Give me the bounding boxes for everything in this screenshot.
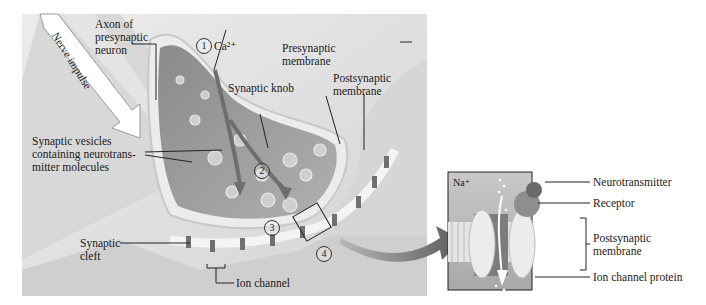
presynaptic-membrane-label: Presynaptic membrane [282,42,336,68]
synaptic-knob-label: Synaptic knob [228,82,294,95]
neurotransmitter-shape [526,182,542,198]
sodium-label: Na⁺ [453,176,470,189]
synaptic-vesicles-label: Synaptic vesicles containing neurotrans-… [32,135,136,174]
calcium-label: Ca²⁺ [214,40,236,53]
step-2-marker: 2 [254,163,270,179]
postsynaptic-membrane-label: Postsynaptic membrane [333,72,391,98]
receptor-label: Receptor [593,197,635,210]
synapse-diagram: Nerve impulse Axon of presynaptic neuron… [0,0,706,305]
step-1-marker: 1 [196,38,212,54]
ion-channel-protein-label: Ion channel protein [593,271,682,284]
step-4-marker: 4 [316,246,332,262]
ion-channel-label: Ion channel [236,277,290,290]
axon-label: Axon of presynaptic neuron [95,18,148,57]
neurotransmitter-label: Neurotransmitter [593,176,672,189]
step-3-marker: 3 [264,220,280,236]
inset-postsynaptic-membrane-label: Postsynaptic membrane [593,232,651,258]
ion-channel-protein-right [509,210,535,278]
ion-channel-protein-left [469,210,495,278]
synaptic-cleft-label: Synaptic cleft [80,237,120,263]
